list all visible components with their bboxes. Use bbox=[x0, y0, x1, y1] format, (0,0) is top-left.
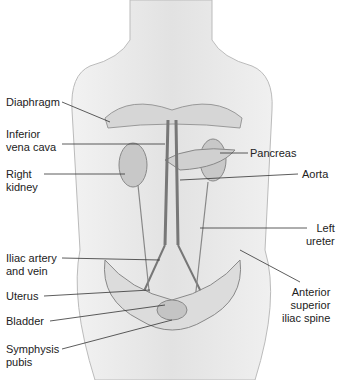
label-left-ureter: Left ureter bbox=[306, 222, 335, 248]
label-bladder: Bladder bbox=[6, 315, 44, 328]
anatomy-diagram: Diaphragm Inferior vena cava Right kidne… bbox=[0, 0, 343, 380]
label-pancreas: Pancreas bbox=[250, 147, 296, 160]
label-symphysis-pubis: Symphysis pubis bbox=[6, 343, 59, 369]
label-diaphragm: Diaphragm bbox=[6, 96, 60, 109]
label-uterus: Uterus bbox=[6, 290, 38, 303]
label-inferior-vena-cava: Inferior vena cava bbox=[6, 128, 56, 154]
label-aorta: Aorta bbox=[302, 168, 328, 181]
label-right-kidney: Right kidney bbox=[6, 168, 38, 194]
label-iliac-artery-vein: Iliac artery and vein bbox=[6, 252, 57, 278]
label-anterior-superior-iliac-spine: Anterior superior iliac spine bbox=[282, 286, 330, 325]
